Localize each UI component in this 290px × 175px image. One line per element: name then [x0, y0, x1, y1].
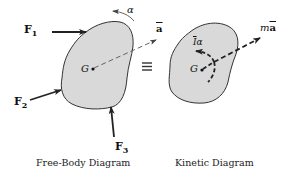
angular-accel-label: α: [127, 5, 134, 15]
equivalence-sign: [142, 63, 152, 70]
inertia-moment-label: Iα: [193, 38, 203, 47]
kinetic-caption: Kinetic Diagram: [175, 158, 254, 168]
free-body-shape: [61, 21, 133, 108]
force-f2-label: F2: [14, 96, 27, 109]
inertia-force-label: ma: [260, 23, 276, 33]
center-of-mass-label: G: [81, 64, 89, 74]
diagram-graphics: [0, 0, 290, 175]
force-f3-arrow: [111, 107, 114, 137]
force-f3-label: F3: [115, 141, 128, 154]
force-f1-label: F1: [24, 24, 37, 37]
kinetic-body-shape: [169, 23, 238, 103]
acceleration-label: a: [156, 24, 162, 34]
free-body-caption: Free-Body Diagram: [36, 158, 130, 168]
diagram-canvas: F1 F2 F3 G α a G Iα ma Free-Body Diagram…: [0, 0, 290, 175]
force-f2-arrow: [30, 90, 61, 100]
kinetic-center-label: G: [190, 64, 198, 74]
